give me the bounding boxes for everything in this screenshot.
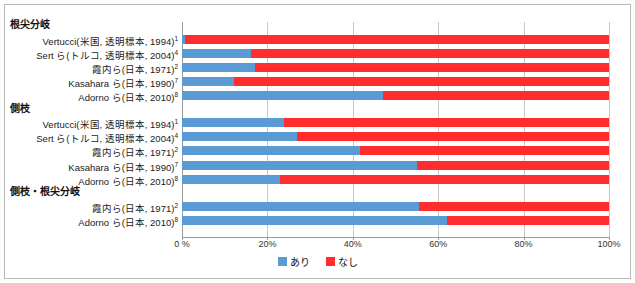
bar-row bbox=[182, 118, 609, 127]
chart-container: 根尖分岐Vertucci(米国, 透明標本, 1994)1Sert ら(トルコ,… bbox=[0, 0, 635, 283]
bar-row bbox=[182, 49, 609, 58]
category-label: 霞内ら(日本, 1971)2 bbox=[92, 145, 178, 158]
category-label: Sert ら(トルコ, 透明標本, 2004)4 bbox=[36, 131, 178, 144]
bar-segment-ari bbox=[182, 146, 360, 155]
bar-segment-nashi bbox=[255, 63, 609, 72]
bar-segment-nashi bbox=[419, 202, 609, 211]
bar-row bbox=[182, 91, 609, 100]
bar-segment-nashi bbox=[251, 49, 609, 58]
group-label-1: 側枝 bbox=[10, 104, 30, 114]
bar-row bbox=[182, 161, 609, 170]
legend-swatch-icon bbox=[278, 257, 287, 266]
category-label: Vertucci(米国, 透明標本, 1994)1 bbox=[43, 34, 178, 47]
chart-legend: ありなし bbox=[0, 254, 635, 269]
bar-row bbox=[182, 77, 609, 86]
legend-item-1[interactable]: なし bbox=[326, 254, 358, 269]
category-label: 霞内ら(日本, 1971)2 bbox=[92, 62, 178, 75]
bar-row bbox=[182, 175, 609, 184]
plot-area bbox=[182, 22, 609, 237]
reference-superscript: 8 bbox=[174, 216, 178, 223]
bar-row bbox=[182, 35, 609, 44]
x-tick-label: 40% bbox=[344, 239, 362, 249]
bar-segment-ari bbox=[182, 91, 383, 100]
x-tick-label: 60% bbox=[429, 239, 447, 249]
reference-superscript: 4 bbox=[174, 132, 178, 139]
bar-segment-nashi bbox=[360, 146, 609, 155]
reference-superscript: 7 bbox=[174, 77, 178, 84]
reference-superscript: 8 bbox=[174, 91, 178, 98]
bar-segment-ari bbox=[182, 202, 419, 211]
reference-superscript: 8 bbox=[174, 175, 178, 182]
reference-superscript: 4 bbox=[174, 49, 178, 56]
group-label-0: 根尖分岐 bbox=[10, 20, 50, 30]
bar-segment-nashi bbox=[447, 216, 609, 225]
bar-segment-nashi bbox=[284, 118, 609, 127]
bar-row bbox=[182, 63, 609, 72]
bar-segment-ari bbox=[182, 216, 447, 225]
gridline-100 bbox=[609, 22, 610, 237]
bar-segment-ari bbox=[182, 175, 280, 184]
category-label: Sert ら(トルコ, 透明標本, 2004)4 bbox=[36, 48, 178, 61]
category-label: Kasahara ら(日本, 1990)7 bbox=[68, 76, 178, 89]
bar-segment-ari bbox=[182, 63, 255, 72]
legend-swatch-icon bbox=[326, 257, 335, 266]
x-tick-label: 100% bbox=[597, 239, 620, 249]
bar-segment-ari bbox=[182, 49, 251, 58]
bar-segment-nashi bbox=[383, 91, 609, 100]
x-tick-label: 0 % bbox=[174, 239, 190, 249]
category-label: Adorno ら(日本, 2010)8 bbox=[78, 174, 178, 187]
legend-label: なし bbox=[338, 254, 358, 269]
bar-segment-nashi bbox=[417, 161, 609, 170]
group-label-2: 側枝・根尖分岐 bbox=[10, 187, 80, 197]
bar-segment-nashi bbox=[297, 132, 609, 141]
bar-row bbox=[182, 146, 609, 155]
category-label: Adorno ら(日本, 2010)8 bbox=[78, 215, 178, 228]
bar-segment-ari bbox=[182, 77, 234, 86]
legend-label: あり bbox=[290, 254, 310, 269]
x-axis: 0 %20%40%60%80%100% bbox=[182, 237, 609, 251]
bar-segment-nashi bbox=[185, 35, 609, 44]
reference-superscript: 1 bbox=[174, 35, 178, 42]
legend-item-0[interactable]: あり bbox=[278, 254, 310, 269]
category-label: Vertucci(米国, 透明標本, 1994)1 bbox=[43, 117, 178, 130]
category-axis-labels: 根尖分岐Vertucci(米国, 透明標本, 1994)1Sert ら(トルコ,… bbox=[6, 22, 180, 237]
category-label: Adorno ら(日本, 2010)8 bbox=[78, 90, 178, 103]
bar-row bbox=[182, 202, 609, 211]
x-tick-label: 20% bbox=[258, 239, 276, 249]
bar-segment-ari bbox=[182, 161, 417, 170]
reference-superscript: 2 bbox=[174, 146, 178, 153]
category-label: Kasahara ら(日本, 1990)7 bbox=[68, 160, 178, 173]
bar-segment-nashi bbox=[280, 175, 609, 184]
x-tick-label: 80% bbox=[515, 239, 533, 249]
bar-row bbox=[182, 216, 609, 225]
bar-segment-ari bbox=[182, 132, 297, 141]
reference-superscript: 2 bbox=[174, 63, 178, 70]
bar-segment-nashi bbox=[234, 77, 609, 86]
reference-superscript: 2 bbox=[174, 202, 178, 209]
bar-segment-ari bbox=[182, 118, 284, 127]
reference-superscript: 7 bbox=[174, 161, 178, 168]
reference-superscript: 1 bbox=[174, 118, 178, 125]
category-label: 霞内ら(日本, 1971)2 bbox=[92, 201, 178, 214]
bar-row bbox=[182, 132, 609, 141]
